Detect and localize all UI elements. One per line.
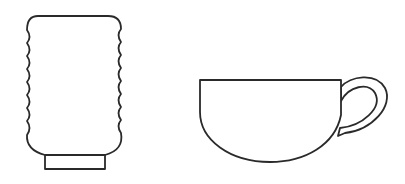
teacup-drawing [200,77,387,162]
tumbler-drawing [27,16,121,169]
teacup-handle [338,77,387,136]
drawing-canvas [0,0,405,184]
teacup-bowl [200,80,341,162]
tumbler-body [27,16,121,155]
tumbler-base [45,154,105,169]
